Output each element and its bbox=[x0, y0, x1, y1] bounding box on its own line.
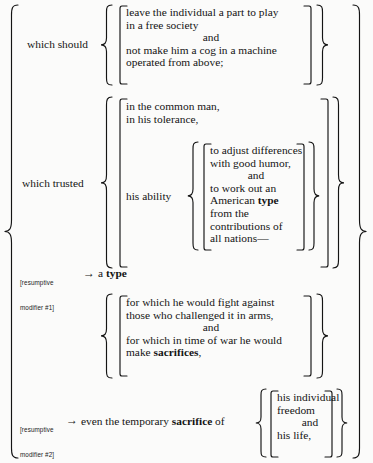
bold-word-type: type bbox=[258, 194, 279, 206]
line: all nations— bbox=[210, 232, 302, 245]
for-which-lines: for which he would fight against those w… bbox=[126, 296, 296, 359]
right-outer-brace bbox=[349, 4, 369, 459]
tag-line-1: [resumptive bbox=[20, 279, 54, 287]
resumptive-modifier-1-tag: [resumptive modifier #1] bbox=[20, 263, 54, 329]
arrow-right-icon: → bbox=[66, 413, 78, 428]
his-ability-lines: to adjust differences with good humor, a… bbox=[210, 144, 302, 245]
which-should-lines: leave the individual a part to play in a… bbox=[126, 6, 296, 69]
sacrifice-of-right-brace bbox=[334, 388, 349, 460]
tag-line-2: modifier #1] bbox=[20, 304, 54, 312]
tag-line-2: modifier #2] bbox=[20, 451, 54, 459]
line-text-tail: , bbox=[198, 346, 201, 358]
branch-label-which-trusted: which trusted bbox=[22, 177, 84, 189]
which-trusted-left-brace bbox=[99, 96, 115, 270]
text-after: of bbox=[212, 415, 224, 427]
line: in a free society bbox=[126, 19, 296, 32]
left-outer-brace bbox=[2, 4, 22, 459]
bold-word: sacrifice bbox=[172, 415, 212, 427]
line: operated from above; bbox=[126, 56, 296, 69]
for-which-right-brace bbox=[314, 293, 330, 379]
line: from the bbox=[210, 207, 302, 220]
tag-line-1: [resumptive bbox=[20, 426, 54, 434]
line: leave the individual a part to play bbox=[126, 6, 296, 19]
sacrifice-of-left-brace bbox=[254, 388, 269, 460]
line-conjunction: and bbox=[210, 169, 302, 182]
sacrifice-of-square-bracket-right bbox=[324, 390, 334, 458]
line-make-sacrifices: make sacrifices, bbox=[126, 346, 296, 359]
line: in his tolerance, bbox=[126, 113, 266, 126]
sub-branch-label-his-ability: his ability bbox=[126, 190, 171, 202]
line: not make him a cog in a machine bbox=[126, 44, 296, 57]
his-ability-right-brace bbox=[306, 141, 321, 253]
which-trusted-lines: in the common man, in his tolerance, bbox=[126, 100, 266, 125]
line: to work out an bbox=[210, 182, 302, 195]
diagram-canvas: which should leave the individual a part… bbox=[0, 0, 373, 463]
line-conjunction: and bbox=[126, 321, 296, 334]
resumptive-modifier-1-text: a type bbox=[98, 267, 127, 280]
which-should-square-bracket-right bbox=[303, 5, 313, 85]
which-trusted-square-bracket-right bbox=[320, 98, 330, 268]
line-text-plain: make bbox=[126, 346, 154, 358]
text-plain: a bbox=[98, 267, 106, 279]
line: for which he would fight against bbox=[126, 296, 296, 309]
line: in the common man, bbox=[126, 100, 266, 113]
bold-word: type bbox=[106, 267, 127, 279]
line: to adjust differences bbox=[210, 144, 302, 157]
arrow-right-icon: → bbox=[83, 266, 95, 281]
line: contributions of bbox=[210, 220, 302, 233]
line: with good humor, bbox=[210, 157, 302, 170]
line-american-type: American type bbox=[210, 194, 302, 207]
for-which-square-bracket-right bbox=[303, 295, 313, 377]
his-ability-square-bracket-right bbox=[296, 143, 306, 251]
for-which-left-brace bbox=[99, 293, 115, 379]
bold-word-sacrifices: sacrifices bbox=[154, 346, 199, 358]
line: for which in time of war he would bbox=[126, 334, 296, 347]
resumptive-modifier-2-tag: [resumptive modifier #2] bbox=[20, 410, 54, 463]
text-before: even the temporary bbox=[81, 415, 172, 427]
branch-label-which-should: which should bbox=[27, 38, 88, 50]
his-ability-left-brace bbox=[186, 141, 201, 253]
line-text-plain: American bbox=[210, 194, 258, 206]
line-conjunction: and bbox=[126, 31, 296, 44]
line: those who challenged it in arms, bbox=[126, 309, 296, 322]
which-should-left-brace bbox=[99, 4, 115, 86]
resumptive-modifier-2-text: even the temporary sacrifice of bbox=[81, 415, 225, 428]
which-should-right-brace bbox=[314, 4, 330, 86]
which-trusted-right-brace bbox=[330, 96, 346, 270]
